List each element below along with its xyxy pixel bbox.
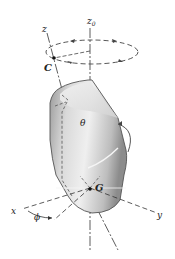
phi-arrow-icon: [48, 216, 52, 220]
theta-label: θ: [80, 118, 86, 128]
precession-diagram: z0 z C θ G x y ϕ: [0, 0, 175, 259]
arrow-icon: [112, 39, 117, 43]
point-C: [52, 56, 56, 60]
y-label: y: [156, 210, 163, 220]
rigid-body: [50, 80, 130, 213]
G-label: G: [95, 182, 104, 193]
z-label: z: [41, 24, 47, 34]
z0-label: z0: [86, 16, 96, 27]
arrow-icon: [70, 39, 75, 43]
C-label: C: [44, 62, 52, 73]
precession-path: [46, 39, 138, 64]
arrow-icon: [118, 59, 123, 62]
phi-label: ϕ: [34, 212, 40, 222]
point-G: [88, 187, 92, 191]
x-label: x: [11, 206, 16, 216]
